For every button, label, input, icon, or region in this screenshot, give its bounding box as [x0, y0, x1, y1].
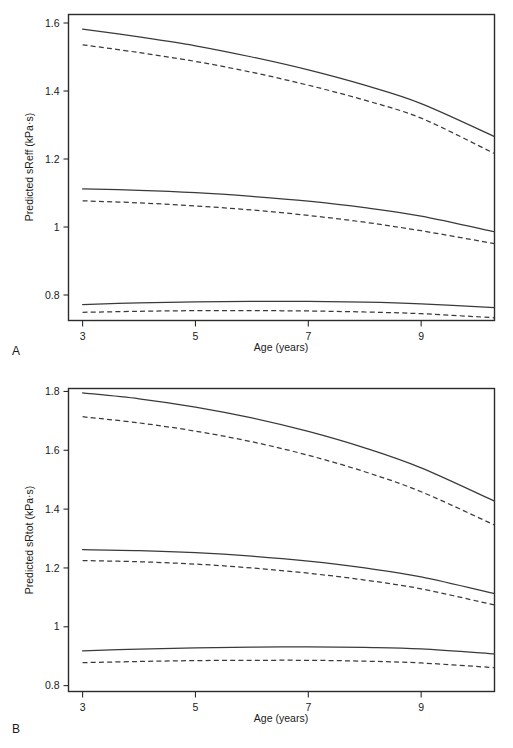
curve-lower-percentile-solid [83, 647, 495, 654]
y-tick-label: 1.2 [45, 153, 60, 165]
x-tick-label: 3 [80, 330, 86, 342]
y-tick-label: 1.8 [45, 385, 60, 397]
y-tick-label: 1.2 [45, 562, 60, 574]
curve-lower-percentile-dashed [83, 660, 495, 667]
panel-b-y-tick-labels: 0.811.21.41.61.8 [45, 385, 60, 691]
figure-container: 0.811.21.41.6 3579 Age (years) Predicted… [0, 0, 513, 748]
panel-b-letter: B [12, 722, 20, 736]
y-tick-label: 1.6 [45, 17, 60, 29]
x-tick-label: 9 [418, 701, 424, 713]
curve-lower-percentile-dashed [83, 311, 495, 318]
panel-a-letter: A [12, 344, 20, 358]
panel-a-x-ticks [83, 321, 422, 327]
curve-lower-percentile-solid [83, 301, 495, 307]
panel-a-x-tick-labels: 3579 [80, 330, 425, 342]
panel-a-y-axis-title: Predicted sReff (kPa·s) [23, 113, 35, 221]
panel-a-y-ticks [64, 23, 69, 295]
panel-b-y-axis-title: Predicted sRtot (kPa·s) [23, 486, 35, 595]
x-tick-label: 5 [193, 701, 199, 713]
panel-b-plot: 0.811.21.41.61.8 3579 Age (years) Predic… [0, 374, 513, 748]
curve-upper-percentile-dashed [83, 45, 495, 154]
panel-a: 0.811.21.41.6 3579 Age (years) Predicted… [0, 0, 513, 374]
curve-median-dashed [83, 561, 495, 605]
panel-b-x-axis-title: Age (years) [254, 712, 308, 724]
curve-median-dashed [83, 201, 495, 244]
panel-b-y-ticks [64, 391, 69, 685]
y-tick-label: 0.8 [45, 289, 60, 301]
y-tick-label: 0.8 [45, 679, 60, 691]
panel-a-plot: 0.811.21.41.6 3579 Age (years) Predicted… [0, 0, 513, 374]
curve-upper-percentile-solid [83, 29, 495, 136]
y-tick-label: 1 [54, 221, 60, 233]
panel-b-x-tick-labels: 3579 [80, 701, 425, 713]
curve-median-solid [83, 189, 495, 232]
panel-b-curves [83, 393, 495, 668]
panel-a-curves [83, 29, 495, 318]
panel-a-y-tick-labels: 0.811.21.41.6 [45, 17, 60, 301]
x-tick-label: 7 [305, 330, 311, 342]
y-tick-label: 1.6 [45, 444, 60, 456]
y-tick-label: 1 [54, 620, 60, 632]
panel-b: 0.811.21.41.61.8 3579 Age (years) Predic… [0, 374, 513, 748]
panel-a-x-axis-title: Age (years) [254, 341, 308, 353]
curve-upper-percentile-solid [83, 393, 495, 501]
x-tick-label: 5 [193, 330, 199, 342]
x-tick-label: 3 [80, 701, 86, 713]
panel-a-plot-frame [69, 15, 495, 321]
panel-b-plot-frame [69, 389, 495, 692]
y-tick-label: 1.4 [45, 503, 60, 515]
panel-b-x-ticks [83, 692, 422, 698]
x-tick-label: 9 [418, 330, 424, 342]
y-tick-label: 1.4 [45, 85, 60, 97]
curve-upper-percentile-dashed [83, 417, 495, 525]
x-tick-label: 7 [305, 701, 311, 713]
